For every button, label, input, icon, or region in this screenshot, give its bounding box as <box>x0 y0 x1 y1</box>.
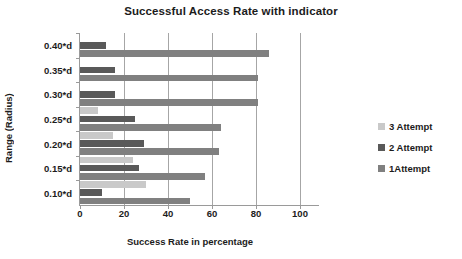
legend-swatch-icon <box>378 165 385 172</box>
y-axis-tick <box>76 58 80 59</box>
bar <box>80 198 190 205</box>
x-axis-title: Success Rate in percentage <box>60 236 320 247</box>
legend-swatch-icon <box>378 144 385 151</box>
legend-item[interactable]: 1Attempt <box>378 158 460 179</box>
x-axis-tick-label: 20 <box>119 208 130 219</box>
bar <box>80 140 144 147</box>
y-axis-tick-label: 0.30*d <box>18 89 72 100</box>
chart-title: Successful Access Rate with indicator <box>0 5 462 17</box>
bar <box>80 99 258 106</box>
legend-swatch-icon <box>378 123 385 130</box>
y-axis-tick-label: 0.10*d <box>18 187 72 198</box>
bar <box>80 107 98 114</box>
x-axis-tick-labels: 020406080100 <box>80 208 320 224</box>
y-axis-title: Range (Radius) <box>2 78 16 178</box>
gridline <box>212 33 213 205</box>
y-axis-tick-label: 0.40*d <box>18 40 72 51</box>
y-axis-tick-label: 0.15*d <box>18 163 72 174</box>
gridline <box>256 33 257 205</box>
plot-area <box>80 33 300 205</box>
bar <box>80 50 269 57</box>
y-axis-tick-label: 0.20*d <box>18 138 72 149</box>
legend-item[interactable]: 2 Attempt <box>378 137 460 158</box>
y-axis-tick <box>76 82 80 83</box>
bar <box>80 181 146 188</box>
y-axis-tick-label: 0.35*d <box>18 64 72 75</box>
legend-item[interactable]: 3 Attempt <box>378 116 460 137</box>
bar <box>80 124 221 131</box>
bar <box>80 67 115 74</box>
gridline <box>300 33 301 205</box>
x-axis-tick-label: 100 <box>292 208 308 219</box>
bar <box>80 75 258 82</box>
legend-label: 3 Attempt <box>389 121 432 132</box>
y-axis-tick-labels: 0.10*d0.15*d0.20*d0.25*d0.30*d0.35*d0.40… <box>18 33 76 205</box>
bar <box>80 173 205 180</box>
legend-label: 1Attempt <box>389 163 430 174</box>
chart-legend: 3 Attempt2 Attempt1Attempt <box>378 116 460 179</box>
x-axis-line <box>79 205 319 206</box>
bar <box>80 148 219 155</box>
bar <box>80 116 135 123</box>
bar-chart: Successful Access Rate with indicator Ra… <box>0 0 462 259</box>
bar <box>80 189 102 196</box>
y-axis-tick-label: 0.25*d <box>18 114 72 125</box>
x-axis-tick-label: 80 <box>251 208 262 219</box>
bar <box>80 157 133 164</box>
bar <box>80 42 106 49</box>
y-axis-tick <box>76 33 80 34</box>
bar <box>80 91 115 98</box>
x-axis-tick-label: 60 <box>207 208 218 219</box>
x-axis-tick-label: 0 <box>77 208 82 219</box>
x-axis-tick-label: 40 <box>163 208 174 219</box>
bar <box>80 165 139 172</box>
legend-label: 2 Attempt <box>389 142 432 153</box>
bar <box>80 132 113 139</box>
